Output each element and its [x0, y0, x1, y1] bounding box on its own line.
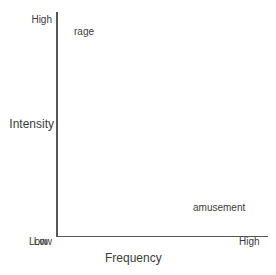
x-axis-title: Frequency [105, 252, 162, 265]
y-axis-title: Intensity [9, 118, 54, 131]
x-axis-line [56, 236, 268, 238]
x-axis-tick-low: Low [29, 236, 47, 247]
y-axis-tick-high: High [31, 14, 52, 25]
data-label-rage: rage [74, 26, 94, 37]
emotion-intensity-frequency-chart: High Intensity Low Low High Frequency ra… [0, 0, 276, 275]
data-label-amusement: amusement [193, 202, 245, 213]
y-axis-line [56, 12, 58, 237]
x-axis-tick-high: High [239, 236, 260, 247]
